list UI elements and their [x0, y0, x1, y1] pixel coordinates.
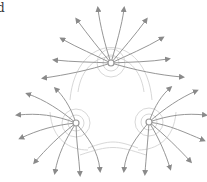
field-lines-right — [124, 88, 205, 173]
charge-top — [108, 60, 114, 66]
field-lines-top — [44, 9, 182, 78]
charges — [73, 60, 152, 126]
charge-left — [73, 120, 79, 126]
charge-right — [146, 119, 152, 125]
field-line-diagram — [0, 0, 207, 182]
